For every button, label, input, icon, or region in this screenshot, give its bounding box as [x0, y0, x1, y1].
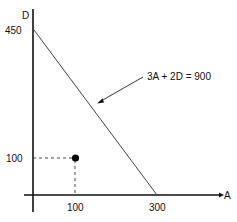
annotation-arrowhead-icon [97, 99, 104, 104]
x-tick-100: 100 [67, 202, 84, 213]
x-tick-300: 300 [149, 202, 166, 213]
x-axis-label: A [224, 190, 231, 201]
y-tick-450: 450 [5, 25, 22, 36]
data-point [72, 154, 79, 161]
annotation-arrow [101, 77, 143, 101]
y-tick-100: 100 [6, 153, 23, 164]
equation-label: 3A + 2D = 900 [147, 71, 211, 82]
constraint-line [34, 30, 157, 195]
chart: D 450 100 100 300 A 3A + 2D = 900 [0, 0, 237, 222]
y-axis-label: D [22, 10, 29, 21]
